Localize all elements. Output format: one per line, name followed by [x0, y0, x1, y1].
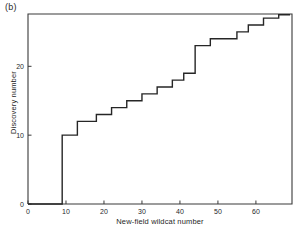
plot-area: [0, 0, 305, 230]
x-tick-label: 10: [62, 208, 70, 215]
x-tick-label: 20: [100, 208, 108, 215]
plot-frame: [28, 14, 292, 204]
axes-frame: [28, 14, 292, 204]
x-tick-label: 50: [214, 208, 222, 215]
y-tick-label: 10: [4, 132, 24, 139]
figure-panel-b: (b) Discovery number New-field wildcat n…: [0, 0, 305, 230]
x-tick-label: 0: [26, 208, 30, 215]
x-tick-label: 60: [252, 208, 260, 215]
y-tick-label: 0: [4, 201, 24, 208]
y-tick-label: 20: [4, 63, 24, 70]
x-tick-label: 30: [138, 208, 146, 215]
curve-path: [28, 15, 290, 204]
x-tick-label: 40: [176, 208, 184, 215]
discovery-curve: [28, 15, 290, 204]
